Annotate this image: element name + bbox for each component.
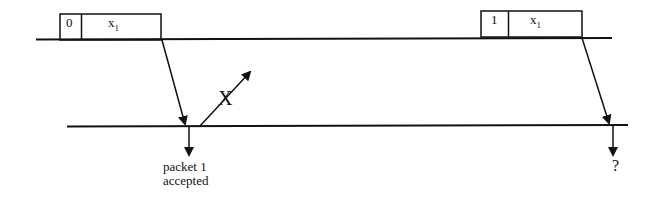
packet-0-arrow [162,40,185,124]
packet-0-payload: x1 [108,15,119,33]
packet-1-payload: x1 [530,12,541,30]
packet-0-seq: 0 [66,15,73,31]
packet-1-seq: 1 [491,12,498,28]
lost-marker: X [218,88,232,108]
packet-0-payload-sub: 1 [115,23,120,33]
receiver-timeline [67,125,628,127]
packet-1-arrow [582,38,609,123]
accepted-label-line1: packet 1 [163,160,207,174]
diagram-canvas [0,0,658,197]
accepted-label-line2: accepted [163,174,208,188]
packet-1-payload-sub: 1 [537,20,542,30]
unknown-label: ? [612,159,619,173]
